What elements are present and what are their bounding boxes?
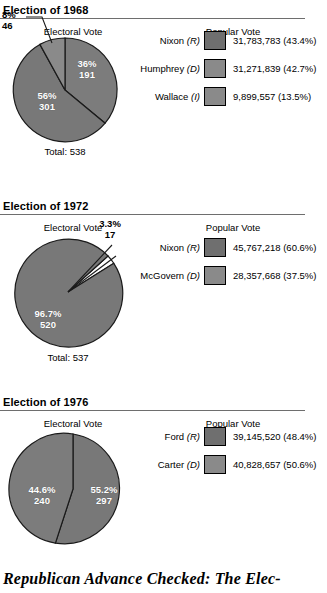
legend-party: (R) — [187, 35, 200, 46]
legend-party: (R) — [187, 431, 200, 442]
slice-votes: 297 — [96, 495, 112, 506]
legend-row: Wallace (I) 9,899,557 (13.5%) — [128, 86, 316, 107]
legend-swatch — [204, 427, 226, 446]
legend-row: Ford (R) 39,145,520 (48.4%) — [128, 426, 316, 447]
legend-candidate-name: Wallace — [155, 91, 188, 102]
legend-value: 39,145,520 (48.4%) — [226, 431, 316, 442]
legend-candidate-name: Carter — [158, 459, 184, 470]
legend-row: Carter (D) 40,828,657 (50.6%) — [128, 454, 316, 475]
legend-heading: Popular Vote — [158, 222, 308, 233]
section-election-1968: Election of 1968 Electoral Vote Popular … — [0, 4, 327, 190]
slice-pct: 36% — [77, 58, 96, 69]
section-election-1972: Election of 1972 Electoral Vote Popular … — [0, 200, 327, 386]
slice-label-humphrey: 36% 191 — [60, 58, 114, 80]
legend-1968: Nixon (R) 31,783,783 (43.4%) Humphrey (D… — [128, 30, 316, 114]
legend-party: (D) — [187, 459, 200, 470]
callout-pct: 8% — [2, 9, 16, 20]
slice-label-nixon: 96.7% 520 — [18, 308, 78, 330]
legend-row: Humphrey (D) 31,271,839 (42.7%) — [128, 58, 316, 79]
legend-party: (D) — [187, 270, 200, 281]
callout-votes: 46 — [2, 20, 13, 31]
slice-label-carter: 55.2% 297 — [76, 484, 132, 506]
callout-votes: 17 — [105, 229, 116, 240]
slice-pct: 44.6% — [29, 484, 56, 495]
legend-candidate: McGovern (D) — [128, 270, 204, 281]
legend-candidate: Humphrey (D) — [128, 63, 204, 74]
legend-row: McGovern (D) 28,357,668 (37.5%) — [128, 265, 316, 286]
legend-party: (I) — [191, 91, 200, 102]
legend-row: Nixon (R) 45,767,218 (60.6%) — [128, 237, 316, 258]
callout-label-wallace: 8% 46 — [2, 9, 16, 31]
slice-label-nixon: 56% 301 — [20, 90, 74, 112]
legend-candidate-name: McGovern — [140, 270, 184, 281]
legend-candidate: Wallace (I) — [128, 91, 204, 102]
slice-label-ford: 44.6% 240 — [14, 484, 70, 506]
legend-candidate-name: Ford — [165, 431, 185, 442]
legend-value: 31,271,839 (42.7%) — [226, 63, 316, 74]
legend-swatch — [204, 59, 226, 78]
section-election-1976: Election of 1976 Electoral Vote Popular … — [0, 396, 327, 571]
slice-pct: 96.7% — [35, 308, 62, 319]
figure-caption: Republican Advance Checked: The Elec- — [3, 570, 281, 588]
legend-candidate: Nixon (R) — [128, 242, 204, 253]
slice-pct: 55.2% — [91, 484, 118, 495]
legend-row: Nixon (R) 31,783,783 (43.4%) — [128, 30, 316, 51]
legend-value: 28,357,668 (37.5%) — [226, 270, 316, 281]
legend-swatch — [204, 238, 226, 257]
legend-party: (R) — [187, 242, 200, 253]
legend-candidate-name: Nixon — [160, 242, 184, 253]
legend-party: (D) — [187, 63, 200, 74]
legend-value: 40,828,657 (50.6%) — [226, 459, 316, 470]
legend-1976: Ford (R) 39,145,520 (48.4%) Carter (D) 4… — [128, 426, 316, 482]
legend-swatch — [204, 455, 226, 474]
legend-swatch — [204, 266, 226, 285]
legend-swatch — [204, 87, 226, 106]
legend-candidate: Nixon (R) — [128, 35, 204, 46]
legend-value: 9,899,557 (13.5%) — [226, 91, 311, 102]
legend-candidate-name: Nixon — [160, 35, 184, 46]
slice-votes: 301 — [39, 101, 55, 112]
slice-nixon — [15, 239, 123, 347]
total-label: Total: 537 — [16, 352, 120, 363]
slice-votes: 191 — [79, 69, 95, 80]
legend-candidate: Carter (D) — [128, 459, 204, 470]
legend-candidate: Ford (R) — [128, 431, 204, 442]
legend-1972: Nixon (R) 45,767,218 (60.6%) McGovern (D… — [128, 237, 316, 293]
slice-pct: 56% — [37, 90, 56, 101]
slice-votes: 520 — [40, 319, 56, 330]
legend-value: 31,783,783 (43.4%) — [226, 35, 316, 46]
legend-swatch — [204, 31, 226, 50]
slice-votes: 240 — [34, 495, 50, 506]
legend-candidate-name: Humphrey — [140, 63, 184, 74]
callout-leader-line — [26, 17, 52, 43]
total-label: Total: 538 — [13, 146, 117, 157]
callout-pct: 3.3% — [99, 218, 121, 229]
legend-value: 45,767,218 (60.6%) — [226, 242, 316, 253]
callout-label-mcgovern: 3.3% 17 — [93, 218, 127, 240]
